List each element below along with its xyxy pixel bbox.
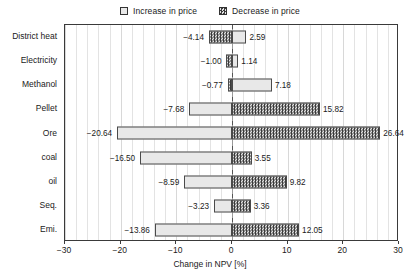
bar-negative[interactable]	[117, 127, 232, 140]
bar-negative[interactable]	[140, 151, 232, 164]
y-axis-label-coal: coal	[41, 152, 57, 162]
y-axis-label-oil: oil	[48, 176, 57, 186]
bar-positive[interactable]	[232, 79, 272, 92]
value-label-positive: 2.59	[249, 33, 265, 42]
bar-positive[interactable]	[232, 175, 287, 188]
x-tick-label: 0	[229, 245, 234, 255]
y-axis-label-district-heat: District heat	[12, 31, 57, 41]
row-tick-stub	[232, 97, 233, 101]
row-tick-stub	[232, 170, 233, 174]
x-tick-mark	[175, 241, 176, 244]
bar-row: −7.6815.82	[65, 97, 397, 121]
chart-legend: Increase in price Decrease in price	[0, 3, 420, 19]
row-tick-stub	[232, 73, 233, 77]
bar-negative[interactable]	[184, 175, 232, 188]
legend-swatch-increase-icon	[120, 7, 128, 15]
y-axis-label-seq: Seq.	[40, 200, 58, 210]
value-label-positive: 15.82	[323, 105, 344, 114]
bar-negative[interactable]	[214, 199, 232, 212]
x-tick-label: 30	[393, 245, 402, 255]
x-tick-mark	[231, 241, 232, 244]
value-label-negative: −0.77	[202, 81, 223, 90]
row-tick-stub	[232, 146, 233, 150]
bar-positive[interactable]	[232, 55, 238, 68]
row-tick-stub	[232, 49, 233, 53]
x-tick-mark	[342, 241, 343, 244]
legend-label-increase: Increase in price	[133, 6, 197, 16]
y-axis-label-ore: Ore	[43, 128, 57, 138]
value-label-positive: 3.55	[255, 153, 271, 162]
y-axis-label-emi: Emi.	[40, 224, 57, 234]
bar-row: −16.503.55	[65, 146, 397, 170]
x-tick-label: −30	[57, 245, 71, 255]
row-tick-stub	[232, 25, 233, 29]
bar-row: −13.8612.05	[65, 218, 397, 242]
bar-row: −1.001.14	[65, 49, 397, 73]
y-axis-label-electricity: Electricity	[21, 55, 57, 65]
row-tick-stub	[232, 121, 233, 125]
bar-positive[interactable]	[232, 151, 252, 164]
x-tick-label: −10	[168, 245, 182, 255]
legend-item-increase: Increase in price	[120, 6, 197, 16]
x-tick-label: −20	[112, 245, 126, 255]
value-label-positive: 1.14	[241, 57, 257, 66]
y-axis-labels: District heatElectricityMethanolPelletOr…	[0, 24, 61, 241]
bar-positive[interactable]	[232, 103, 320, 116]
bar-positive[interactable]	[232, 31, 246, 44]
bar-positive[interactable]	[232, 199, 251, 212]
x-tick-mark	[287, 241, 288, 244]
x-tick-label: 20	[338, 245, 347, 255]
bar-row: −4.142.59	[65, 25, 397, 49]
bar-row: −8.599.82	[65, 170, 397, 194]
value-label-negative: −16.50	[110, 153, 135, 162]
value-label-positive: 12.05	[302, 225, 323, 234]
x-tick-mark	[398, 241, 399, 244]
value-label-negative: −8.59	[158, 177, 179, 186]
tornado-chart: Increase in price Decrease in price Dist…	[0, 0, 420, 279]
x-tick-mark	[120, 241, 121, 244]
bar-positive[interactable]	[232, 127, 380, 140]
x-tick-label: 10	[282, 245, 291, 255]
x-tick-mark	[64, 241, 65, 244]
value-label-negative: −20.64	[87, 129, 112, 138]
value-label-negative: −7.68	[164, 105, 185, 114]
legend-label-decrease: Decrease in price	[232, 6, 300, 16]
x-axis-ticks: −30−20−100102030	[64, 241, 398, 257]
value-label-negative: −3.23	[188, 201, 209, 210]
value-label-positive: 7.18	[275, 81, 291, 90]
legend-item-decrease: Decrease in price	[219, 6, 300, 16]
legend-swatch-decrease-icon	[219, 7, 227, 15]
plot-area: −4.142.59−1.001.14−0.777.18−7.6815.82−20…	[64, 24, 398, 241]
row-tick-stub	[232, 194, 233, 198]
x-axis-title: Change in NPV [%]	[0, 259, 420, 269]
bar-negative[interactable]	[209, 31, 232, 44]
bar-row: −3.233.36	[65, 194, 397, 218]
value-label-negative: −1.00	[201, 57, 222, 66]
bar-negative[interactable]	[189, 103, 232, 116]
y-axis-label-pellet: Pellet	[36, 103, 57, 113]
value-label-negative: −4.14	[183, 33, 204, 42]
bar-negative[interactable]	[155, 223, 232, 236]
value-label-positive: 26.64	[383, 129, 404, 138]
bar-row: −0.777.18	[65, 73, 397, 97]
value-label-positive: 3.36	[254, 201, 270, 210]
value-label-positive: 9.82	[290, 177, 306, 186]
bar-positive[interactable]	[232, 223, 299, 236]
bar-row: −20.6426.64	[65, 121, 397, 145]
y-axis-label-methanol: Methanol	[22, 79, 57, 89]
row-tick-stub	[232, 218, 233, 222]
value-label-negative: −13.86	[125, 225, 150, 234]
bar-rows: −4.142.59−1.001.14−0.777.18−7.6815.82−20…	[65, 25, 397, 240]
